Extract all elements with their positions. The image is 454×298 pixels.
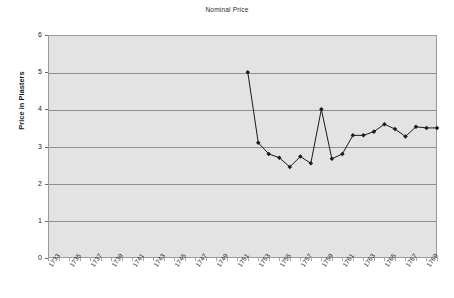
- y-axis-tick-label: 0: [20, 254, 42, 261]
- chart-title: Nominal Price: [0, 6, 454, 13]
- plot-area: [48, 35, 437, 258]
- y-axis-tick-mark: [45, 72, 48, 73]
- y-axis-tick-mark: [45, 221, 48, 222]
- y-axis-tick-label: 6: [20, 31, 42, 38]
- chart-container: Nominal Price Price in Piasters 01234561…: [0, 0, 454, 298]
- y-axis-tick-label: 2: [20, 180, 42, 187]
- y-axis-tick-mark: [45, 147, 48, 148]
- gridline: [49, 221, 436, 222]
- y-axis-tick-label: 4: [20, 105, 42, 112]
- y-axis-tick-label: 3: [20, 143, 42, 150]
- y-axis-tick-label: 5: [20, 68, 42, 75]
- gridline: [49, 147, 436, 148]
- y-axis-tick-mark: [45, 35, 48, 36]
- gridline: [49, 73, 436, 74]
- gridline: [49, 184, 436, 185]
- y-axis-tick-mark: [45, 184, 48, 185]
- y-axis-tick-mark: [45, 109, 48, 110]
- y-axis-tick-label: 1: [20, 217, 42, 224]
- gridline: [49, 110, 436, 111]
